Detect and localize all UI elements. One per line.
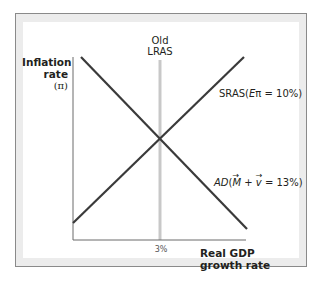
x-axis-tick-3pct: 3% [150, 244, 172, 255]
y-axis-label-line2: rate [22, 68, 68, 80]
y-axis-label: Inflation rate (π) [22, 56, 68, 92]
sras-label-suffix: = 10%) [261, 88, 302, 99]
x-axis-label-line2: growth rate [200, 259, 250, 271]
sras-label: SRAS(Eπ = 10%) [219, 88, 302, 99]
x-axis-label-line1: Real GDP [200, 247, 250, 259]
old-lras-label-line2: LRAS [140, 46, 180, 57]
ad-label-velocity-growth: v [256, 177, 262, 188]
old-lras-label: Old LRAS [140, 35, 180, 57]
ad-label-prefix: AD [214, 177, 229, 188]
x-axis-label: Real GDP growth rate [200, 247, 250, 271]
sras-label-prefix: SRAS( [219, 88, 249, 99]
ad-curve [81, 57, 247, 229]
ad-label-plus: + [241, 177, 256, 188]
y-axis-label-symbol: (π) [22, 80, 68, 92]
y-axis-label-line1: Inflation [22, 56, 68, 68]
ad-label: AD(M + v = 13%) [214, 177, 303, 188]
old-lras-label-line1: Old [140, 35, 180, 46]
ad-label-suffix: = 13%) [262, 177, 303, 188]
ad-label-money-growth: M [232, 177, 241, 188]
